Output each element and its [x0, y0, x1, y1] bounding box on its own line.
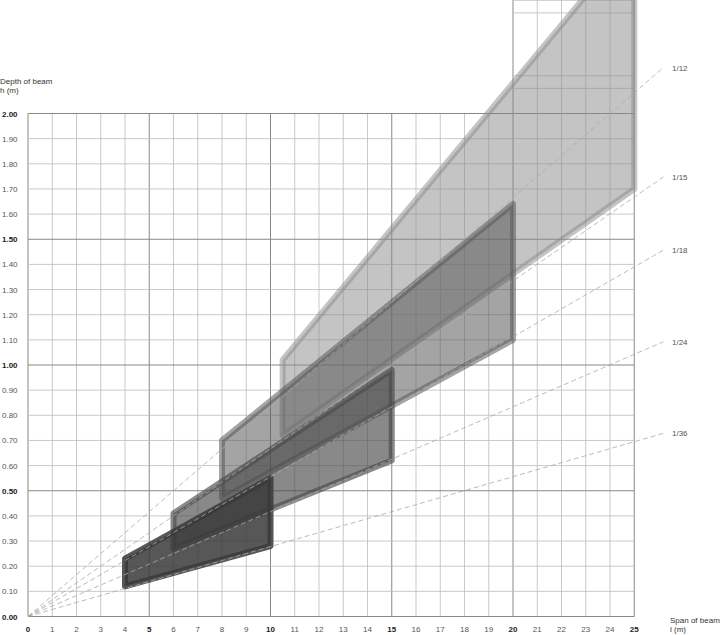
x-tick-label: 5 — [147, 625, 152, 634]
x-tick-label: 2 — [74, 625, 79, 634]
ratio-label: 1/24 — [672, 338, 688, 347]
x-tick-label: 6 — [171, 625, 176, 634]
x-tick-label: 3 — [99, 625, 104, 634]
y-tick-label: 1.60 — [2, 210, 18, 219]
y-tick-label: 1.70 — [2, 185, 18, 194]
y-tick-label: 0.40 — [2, 512, 18, 521]
y-tick-label: 0.90 — [2, 386, 18, 395]
x-tick-label: 25 — [630, 625, 639, 634]
y-tick-label: 0.50 — [2, 487, 18, 496]
y-tick-label: 1.90 — [2, 135, 18, 144]
x-tick-label: 7 — [196, 625, 201, 634]
ratio-label: 1/18 — [672, 246, 688, 255]
y-tick-label: 1.40 — [2, 260, 18, 269]
x-tick-label: 16 — [412, 625, 421, 634]
x-tick-label: 8 — [220, 625, 225, 634]
ratio-label: 1/12 — [672, 64, 688, 73]
x-tick-label: 1 — [50, 625, 55, 634]
x-tick-label: 22 — [557, 625, 566, 634]
y-tick-label: 1.30 — [2, 286, 18, 295]
x-tick-label: 13 — [339, 625, 348, 634]
span-bands — [125, 0, 634, 586]
y-tick-label: 1.10 — [2, 336, 18, 345]
y-tick-label: 1.00 — [2, 361, 18, 370]
x-tick-label: 0 — [26, 625, 31, 634]
x-tick-label: 15 — [387, 625, 396, 634]
y-tick-label: 0.70 — [2, 436, 18, 445]
x-tick-label: 4 — [123, 625, 128, 634]
y-tick-label: 2.00 — [2, 110, 18, 119]
y-tick-label: 0.10 — [2, 587, 18, 596]
ratio-label: 1/36 — [672, 429, 688, 438]
y-tick-label: 0.30 — [2, 537, 18, 546]
x-tick-label: 9 — [244, 625, 249, 634]
y-tick-label: 1.50 — [2, 235, 18, 244]
x-tick-label: 18 — [460, 625, 469, 634]
x-tick-label: 11 — [291, 625, 300, 634]
x-tick-label: 21 — [533, 625, 542, 634]
x-tick-label: 17 — [436, 625, 445, 634]
y-tick-label: 0.20 — [2, 562, 18, 571]
x-tick-label: 19 — [484, 625, 493, 634]
ratio-label: 1/15 — [672, 173, 688, 182]
ratio-line — [28, 177, 663, 617]
x-tick-label: 20 — [509, 625, 518, 634]
x-tick-label: 24 — [606, 625, 615, 634]
y-tick-label: 1.80 — [2, 160, 18, 169]
y-tick-label: 1.20 — [2, 311, 18, 320]
ratio-line — [28, 68, 663, 617]
y-tick-label: 0.80 — [2, 411, 18, 420]
y-tick-label: 0.60 — [2, 462, 18, 471]
y-tick-label: 0.00 — [2, 613, 18, 622]
x-tick-label: 12 — [315, 625, 324, 634]
x-tick-label: 14 — [363, 625, 372, 634]
x-tick-label: 10 — [266, 625, 275, 634]
x-tick-label: 23 — [581, 625, 590, 634]
